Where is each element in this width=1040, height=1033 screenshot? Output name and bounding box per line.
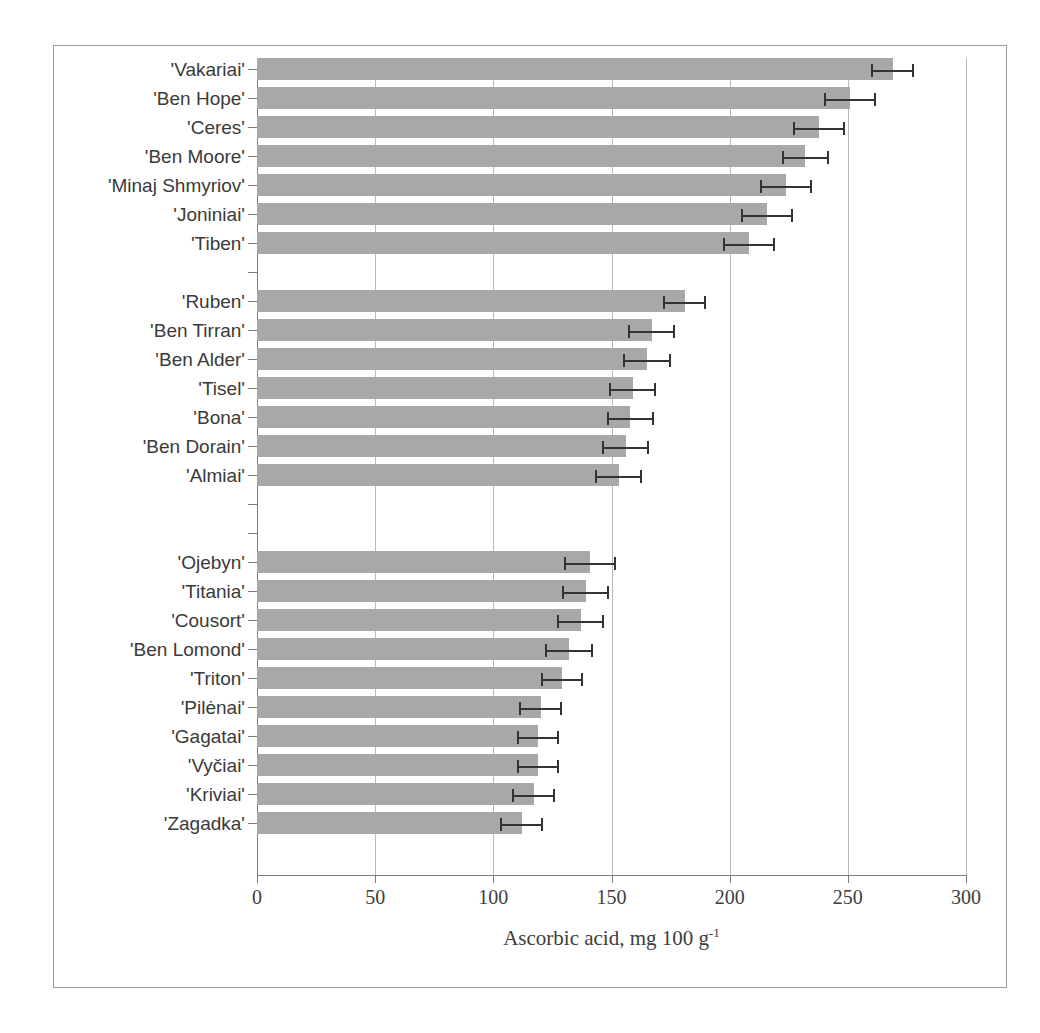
error-bar — [782, 156, 829, 159]
error-bar — [741, 214, 793, 217]
error-bar-cap-low — [517, 760, 519, 773]
bar — [257, 348, 647, 370]
error-bar-cap-low — [623, 354, 625, 367]
error-bar-cap-high — [553, 789, 555, 802]
error-bar-line — [562, 592, 609, 594]
error-bar-line — [500, 824, 543, 826]
category-label: 'Ben Alder' — [60, 349, 245, 371]
error-bar-line — [602, 447, 649, 449]
error-bar-line — [760, 186, 812, 188]
error-bar — [609, 388, 656, 391]
error-bar — [793, 127, 845, 130]
error-bar — [602, 446, 649, 449]
bar — [257, 87, 850, 109]
category-label: 'Minaj Shmyriov' — [60, 175, 245, 197]
error-bar-cap-high — [557, 731, 559, 744]
error-bar — [564, 562, 616, 565]
error-bar-cap-high — [607, 586, 609, 599]
error-bar-line — [663, 302, 706, 304]
category-label: 'Almiai' — [60, 465, 245, 487]
error-bar — [500, 823, 543, 826]
bar — [257, 116, 819, 138]
error-bar-line — [723, 244, 775, 246]
bar — [257, 551, 590, 573]
error-bar-cap-low — [500, 818, 502, 831]
error-bar — [607, 417, 654, 420]
category-label: 'Zagadka' — [60, 813, 245, 835]
category-label: 'Tisel' — [60, 378, 245, 400]
error-bar-cap-high — [673, 325, 675, 338]
bar — [257, 754, 538, 776]
error-bar-line — [517, 737, 560, 739]
error-bar-cap-low — [517, 731, 519, 744]
bar — [257, 580, 586, 602]
bar — [257, 145, 805, 167]
bar — [257, 319, 652, 341]
category-label: 'Gagatai' — [60, 726, 245, 748]
x-tick-label-200: 200 — [715, 886, 745, 909]
error-bar-line — [871, 70, 914, 72]
error-bar-cap-high — [874, 93, 876, 106]
error-bar-line — [512, 795, 555, 797]
error-bar-cap-low — [541, 673, 543, 686]
error-bar-cap-high — [602, 615, 604, 628]
category-label: 'Ben Tirran' — [60, 320, 245, 342]
x-tick-label-50: 50 — [365, 886, 385, 909]
error-bar-cap-low — [609, 383, 611, 396]
x-axis-title-text: Ascorbic acid, mg 100 g — [503, 926, 709, 950]
x-axis-title: Ascorbic acid, mg 100 g-1 — [257, 925, 966, 951]
error-bar — [871, 69, 914, 72]
error-bar-cap-low — [871, 64, 873, 77]
error-bar-cap-high — [791, 209, 793, 222]
error-bar-line — [782, 157, 829, 159]
x-tick-100 — [493, 875, 494, 883]
error-bar-cap-low — [607, 412, 609, 425]
y-tick — [248, 272, 257, 273]
error-bar-cap-high — [560, 702, 562, 715]
error-bar-line — [628, 331, 675, 333]
error-bar-line — [541, 679, 584, 681]
bar — [257, 783, 534, 805]
bar — [257, 667, 562, 689]
error-bar — [512, 794, 555, 797]
error-bar-cap-low — [723, 238, 725, 251]
error-bar — [628, 330, 675, 333]
error-bar — [517, 765, 560, 768]
category-label: 'Pilėnai' — [60, 697, 245, 719]
error-bar-cap-low — [824, 93, 826, 106]
bar — [257, 232, 749, 254]
error-bar-cap-high — [640, 470, 642, 483]
error-bar-cap-low — [741, 209, 743, 222]
category-label: 'Ben Lomond' — [60, 639, 245, 661]
bar — [257, 725, 538, 747]
error-bar — [723, 243, 775, 246]
error-bar-cap-high — [704, 296, 706, 309]
x-tick-250 — [848, 875, 849, 883]
error-bar-cap-low — [782, 151, 784, 164]
bar — [257, 609, 581, 631]
x-tick-label-250: 250 — [833, 886, 863, 909]
x-tick-label-150: 150 — [597, 886, 627, 909]
error-bar-cap-high — [669, 354, 671, 367]
error-bar-cap-low — [595, 470, 597, 483]
bar — [257, 435, 626, 457]
category-label: 'Kriviai' — [60, 784, 245, 806]
error-bar-line — [595, 476, 642, 478]
category-label: 'Joniniai' — [60, 204, 245, 226]
error-bar-cap-low — [793, 122, 795, 135]
y-tick — [248, 533, 257, 534]
x-tick-label-100: 100 — [478, 886, 508, 909]
x-tick-200 — [730, 875, 731, 883]
error-bar-cap-low — [760, 180, 762, 193]
bar — [257, 58, 893, 80]
category-label: 'Ben Hope' — [60, 88, 245, 110]
bar — [257, 406, 630, 428]
error-bar-cap-high — [541, 818, 543, 831]
category-label: 'Ruben' — [60, 291, 245, 313]
error-bar — [824, 98, 876, 101]
bar — [257, 377, 633, 399]
bar — [257, 464, 619, 486]
error-bar-cap-high — [912, 64, 914, 77]
category-label: 'Cousort' — [60, 610, 245, 632]
error-bar-cap-low — [628, 325, 630, 338]
